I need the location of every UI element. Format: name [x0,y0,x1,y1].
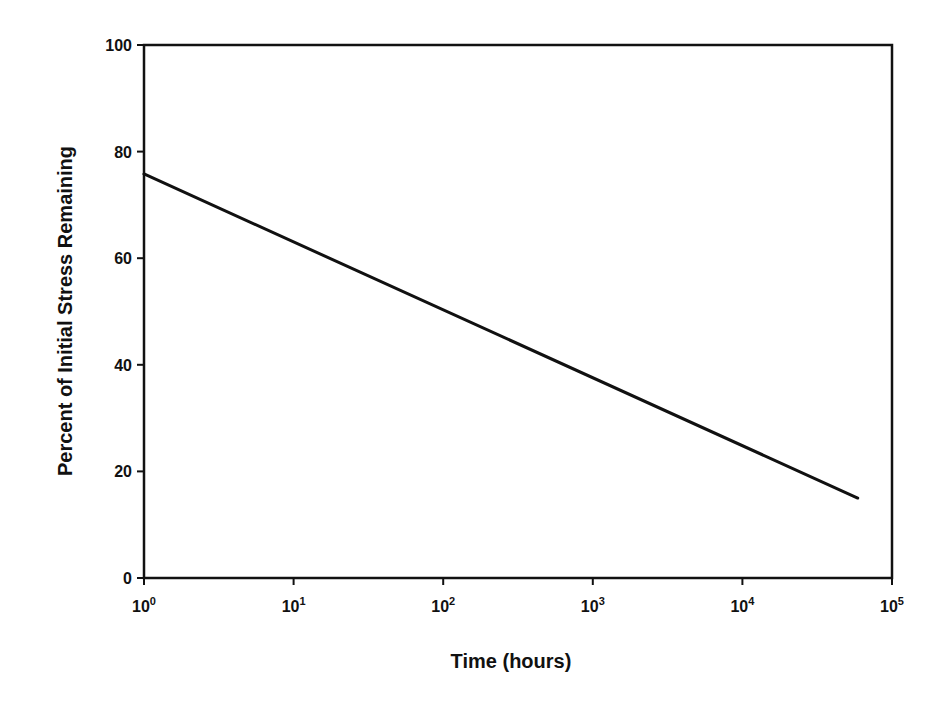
y-tick-label: 100 [105,37,132,54]
x-tick-label: 101 [282,595,306,615]
y-tick-label: 0 [123,570,132,587]
plot-frame [144,45,892,578]
y-tick-label: 40 [114,357,132,374]
y-axis-title: Percent of Initial Stress Remaining [54,146,76,476]
chart: 020406080100 100101102103104105 Time (ho… [0,0,942,712]
x-tick-label: 102 [431,595,455,615]
series-line [144,174,858,498]
x-axis-ticks: 100101102103104105 [132,578,904,615]
data-series [144,174,858,498]
x-tick-label: 104 [730,595,755,615]
x-tick-label: 105 [880,595,904,615]
y-tick-label: 80 [114,144,132,161]
x-axis-title: Time (hours) [451,650,572,672]
y-tick-label: 20 [114,463,132,480]
y-axis-ticks: 020406080100 [105,37,144,587]
y-tick-label: 60 [114,250,132,267]
x-tick-label: 103 [581,595,605,615]
x-tick-label: 100 [132,595,156,615]
